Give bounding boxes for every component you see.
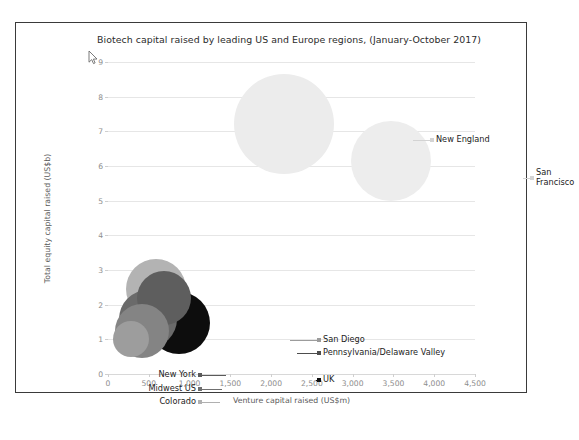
- gridline-y-5: 5: [108, 201, 475, 202]
- bubble-label-pennsylvania-delaware-valley: Pennsylvania/Delaware Valley: [323, 348, 445, 358]
- legend-marker-uk: [317, 378, 321, 382]
- x-tick-mark: [271, 374, 272, 377]
- plot-area: 0123456789 05001,0001,5002,0002,5003,000…: [108, 62, 475, 374]
- bubble-label-new-england: New England: [436, 135, 490, 145]
- legend-marker-san-francisco: [530, 176, 534, 180]
- gridline-y-4: 4: [108, 235, 475, 236]
- x-tick-mark: [312, 374, 313, 377]
- y-tick-mark: [105, 62, 108, 63]
- x-tick-mark: [353, 374, 354, 377]
- legend-marker-san-diego: [317, 338, 321, 342]
- y-tick-label: 8: [98, 92, 103, 101]
- y-tick-label: 3: [98, 266, 103, 275]
- x-tick-label: 3,000: [342, 379, 364, 388]
- y-tick-label: 0: [98, 370, 103, 379]
- x-tick-label: 0: [106, 379, 111, 388]
- leader-line-midwest-us: [200, 389, 222, 390]
- legend-marker-pennsylvania-delaware-valley: [317, 351, 321, 355]
- y-tick-mark: [105, 235, 108, 236]
- y-tick-mark: [105, 270, 108, 271]
- bubble-label-san-francisco: San Francisco: [536, 168, 579, 187]
- bubble-label-new-york: New York: [159, 370, 197, 380]
- y-tick-label: 9: [98, 58, 103, 67]
- x-tick-label: 4,000: [423, 379, 445, 388]
- y-tick-mark: [105, 201, 108, 202]
- y-tick-label: 5: [98, 196, 103, 205]
- y-tick-mark: [105, 131, 108, 132]
- y-tick-label: 2: [98, 300, 103, 309]
- leader-line-new-york: [200, 375, 226, 376]
- legend-marker-midwest-us: [198, 387, 202, 391]
- x-tick-mark: [475, 374, 476, 377]
- leader-line-san-diego: [290, 340, 319, 341]
- y-tick-label: 7: [98, 127, 103, 136]
- y-axis-title: Total equity capital raised (US$b): [42, 62, 54, 374]
- x-tick-label: 3,500: [383, 379, 405, 388]
- legend-marker-new-england: [430, 138, 434, 142]
- bubble-label-san-diego: San Diego: [323, 335, 365, 345]
- leader-line-pennsylvania-delaware-valley: [297, 353, 319, 354]
- bubble-label-uk: UK: [323, 375, 334, 385]
- x-tick-mark: [434, 374, 435, 377]
- bubble-new-england[interactable]: [234, 74, 334, 174]
- x-tick-label: 4,500: [464, 379, 486, 388]
- bubble-san-francisco[interactable]: [351, 121, 431, 201]
- x-tick-label: 1,500: [219, 379, 241, 388]
- bubble-label-midwest-us: Midwest US: [148, 384, 196, 394]
- y-axis-title-text: Total equity capital raised (US$b): [44, 153, 53, 282]
- y-tick-mark: [105, 305, 108, 306]
- x-tick-mark: [393, 374, 394, 377]
- x-axis-title: Venture capital raised (US$m): [108, 396, 475, 405]
- y-tick-mark: [105, 97, 108, 98]
- legend-marker-new-york: [198, 373, 202, 377]
- x-tick-mark: [149, 374, 150, 377]
- y-tick-label: 6: [98, 162, 103, 171]
- x-tick-mark: [230, 374, 231, 377]
- bubble-colorado[interactable]: [113, 321, 149, 357]
- y-tick-mark: [105, 339, 108, 340]
- y-tick-mark: [105, 166, 108, 167]
- chart-card: Biotech capital raised by leading US and…: [15, 22, 527, 393]
- y-tick-label: 4: [98, 231, 103, 240]
- y-tick-label: 1: [98, 335, 103, 344]
- chart-title: Biotech capital raised by leading US and…: [97, 34, 481, 45]
- gridline-y-9: 9: [108, 62, 475, 63]
- x-tick-label: 2,000: [260, 379, 282, 388]
- x-tick-mark: [108, 374, 109, 377]
